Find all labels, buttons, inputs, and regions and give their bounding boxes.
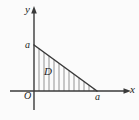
y-axis-arrowhead bbox=[31, 6, 37, 14]
origin-label: O bbox=[24, 91, 31, 101]
region-label-d: D bbox=[44, 66, 52, 77]
x-intercept-label: a bbox=[95, 92, 100, 102]
math-figure: y x a a O D bbox=[0, 0, 139, 120]
x-axis-label: x bbox=[130, 84, 135, 95]
y-axis-label: y bbox=[25, 4, 30, 15]
coordinate-plot-svg bbox=[0, 0, 139, 120]
y-intercept-label: a bbox=[25, 40, 30, 50]
